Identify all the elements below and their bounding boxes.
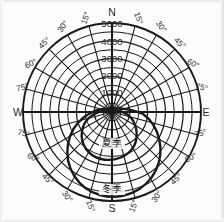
angle-label-1: 30° xyxy=(56,19,70,34)
ring-label-4000: 4000 xyxy=(101,36,122,47)
angle-label-4: 75° xyxy=(15,82,29,94)
angle-label-14: 15° xyxy=(84,199,97,214)
angle-label-12: 45° xyxy=(40,172,55,187)
cardinal-label-north: N xyxy=(108,6,116,18)
polar-chart-container: 15°30°45°60°75°15°30°45°60°75°75°60°45°3… xyxy=(0,0,224,222)
polar-diagram: 15°30°45°60°75°15°30°45°60°75°75°60°45°3… xyxy=(0,0,224,222)
ring-label-5000: 5000 xyxy=(101,18,122,29)
angle-label-6: 30° xyxy=(154,19,168,34)
angle-label-10: 75° xyxy=(17,128,31,140)
cardinal-label-south: S xyxy=(108,202,115,214)
curve-label-summer: 夏季 xyxy=(102,137,122,148)
cardinal-label-east: E xyxy=(202,106,209,118)
ring-label-2000: 2000 xyxy=(101,70,122,81)
angle-label-19: 15° xyxy=(127,199,140,214)
angle-label-0: 15° xyxy=(79,11,92,26)
angle-label-17: 45° xyxy=(169,172,184,187)
ring-label-1000: 1000 xyxy=(101,87,122,98)
angle-label-5: 15° xyxy=(132,11,145,26)
angle-label-15: 75° xyxy=(193,128,207,140)
ring-label-3000: 3000 xyxy=(101,53,122,64)
curve-label-winter: 冬季 xyxy=(102,183,122,194)
angle-label-16: 60° xyxy=(183,151,198,165)
angle-label-9: 75° xyxy=(195,82,209,94)
cardinal-label-west: W xyxy=(13,106,23,118)
